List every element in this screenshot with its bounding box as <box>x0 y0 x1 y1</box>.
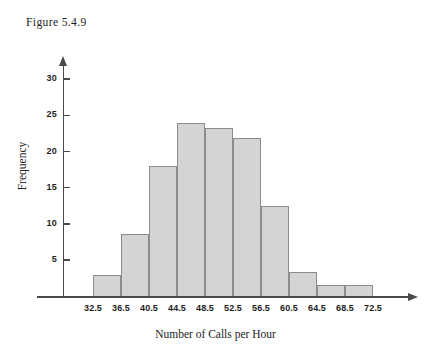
histogram-bar <box>121 234 149 296</box>
x-tick-label: 72.5 <box>353 303 393 313</box>
y-axis-title: Frequency <box>16 126 28 206</box>
y-tick-label: 5 <box>52 254 57 264</box>
y-tick-mark <box>64 151 70 152</box>
x-axis-line <box>37 296 410 297</box>
histogram-bar <box>93 275 121 297</box>
histogram-bar <box>317 285 345 296</box>
y-tick-mark <box>64 259 70 260</box>
y-tick-label: 25 <box>47 109 57 119</box>
histogram-bar <box>233 138 261 297</box>
histogram-figure: Figure 5.4.9 51015202530 32.536.540.544.… <box>0 0 431 354</box>
y-tick-mark <box>64 115 70 116</box>
y-tick-mark <box>64 78 70 79</box>
histogram-bar <box>149 166 177 296</box>
y-tick-label: 15 <box>47 182 57 192</box>
histogram-bar <box>177 123 205 297</box>
y-tick-mark <box>64 223 70 224</box>
histogram-bar <box>345 285 373 296</box>
y-tick-label: 10 <box>47 218 57 228</box>
y-tick-label: 20 <box>47 146 57 156</box>
histogram-bar <box>289 272 317 297</box>
x-axis-title: Number of Calls per Hour <box>0 328 431 340</box>
histogram-bar <box>261 206 289 297</box>
y-tick-label: 30 <box>47 73 57 83</box>
histogram-bar <box>205 128 233 297</box>
plot-area: 51015202530 32.536.540.544.548.552.556.5… <box>0 0 431 354</box>
y-axis-arrow-icon <box>59 56 67 66</box>
x-axis-arrow-icon <box>408 293 418 301</box>
y-tick-mark <box>64 187 70 188</box>
y-axis-line <box>63 64 64 297</box>
